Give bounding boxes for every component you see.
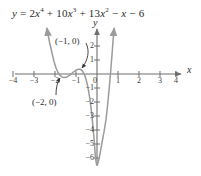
annotation-minus-two-zero: (−2, 0)	[32, 97, 57, 107]
x-axis-label: x	[187, 64, 191, 75]
x-tick-label-4: 4	[170, 76, 182, 85]
curve-right-arrowhead	[113, 28, 114, 36]
origin-label: 0	[87, 76, 97, 85]
y-axis-label: y	[93, 17, 97, 28]
y-tick-label--2: −2	[80, 97, 94, 106]
y-tick-label-1: 1	[84, 55, 94, 64]
x-tick-label-1: 1	[112, 76, 124, 85]
y-tick-label-2: 2	[84, 41, 94, 50]
y-tick-label--5: −5	[80, 139, 94, 148]
y-tick-label--3: −3	[80, 111, 94, 120]
x-tick-label--4: −4	[6, 76, 20, 85]
curve-left-arrowhead	[47, 28, 48, 36]
x-tick-label-3: 3	[154, 76, 166, 85]
y-tick-label--4: −4	[80, 125, 94, 134]
annotation-minus-one-zero: (−1, 0)	[55, 36, 80, 46]
graph-canvas	[0, 0, 201, 176]
x-tick-label--2: −2	[48, 76, 62, 85]
x-tick-label-2: 2	[133, 76, 145, 85]
y-tick-label--6: −6	[80, 153, 94, 162]
x-tick-label--3: −3	[27, 76, 41, 85]
